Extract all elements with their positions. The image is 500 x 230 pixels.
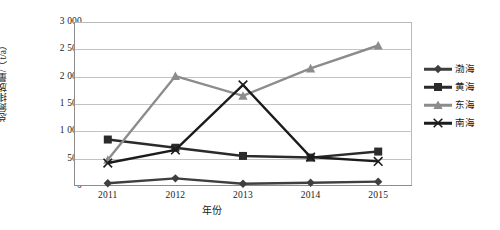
series-layer (74, 22, 412, 186)
data-point-square (104, 136, 112, 144)
x-tick-label: 2014 (301, 190, 321, 200)
x-tick-label: 2015 (368, 190, 388, 200)
legend-item-东海[interactable]: 东海 (424, 96, 500, 114)
data-point-x (239, 81, 248, 90)
data-point-square (434, 83, 442, 91)
plot-area (74, 22, 412, 186)
legend-swatch-x-icon (424, 117, 452, 129)
data-point-diamond (434, 65, 442, 73)
x-tick-label: 2011 (98, 190, 117, 200)
series-line (108, 46, 378, 160)
legend-swatch-square-icon (424, 81, 452, 93)
legend-swatch-diamond-icon (424, 63, 452, 75)
data-point-x (434, 119, 443, 128)
x-tick-label: 2013 (233, 190, 253, 200)
data-point-diamond (306, 179, 314, 187)
data-point-diamond (104, 179, 112, 187)
legend-item-渤海[interactable]: 渤海 (424, 60, 500, 78)
data-point-triangle (374, 41, 383, 50)
x-axis-title: 年份 (0, 205, 500, 216)
legend-label: 黄海 (455, 82, 475, 92)
data-point-diamond (171, 174, 179, 182)
series-渤海 (104, 174, 383, 188)
data-point-square (374, 148, 382, 156)
legend-label: 东海 (455, 100, 475, 110)
legend-item-南海[interactable]: 南海 (424, 114, 500, 132)
data-point-diamond (374, 177, 382, 185)
data-point-diamond (239, 180, 247, 188)
legend-swatch-triangle-icon (424, 99, 452, 111)
legend-label: 南海 (455, 118, 475, 128)
chart-figure: 总氮排放量/（t/a） 3 0002 5002 0001 5001 000500… (0, 0, 500, 230)
chart-legend: 渤海黄海东海南海 (424, 60, 500, 132)
data-point-square (239, 152, 247, 160)
legend-label: 渤海 (455, 64, 475, 74)
y-axis-title: 总氮排放量/（t/a） (0, 40, 12, 122)
legend-item-黄海[interactable]: 黄海 (424, 78, 500, 96)
data-point-triangle (171, 72, 180, 81)
series-黄海 (104, 136, 382, 162)
x-axis-title-text: 年份 (202, 205, 222, 216)
x-tick-label: 2012 (165, 190, 185, 200)
data-point-triangle (433, 100, 442, 109)
